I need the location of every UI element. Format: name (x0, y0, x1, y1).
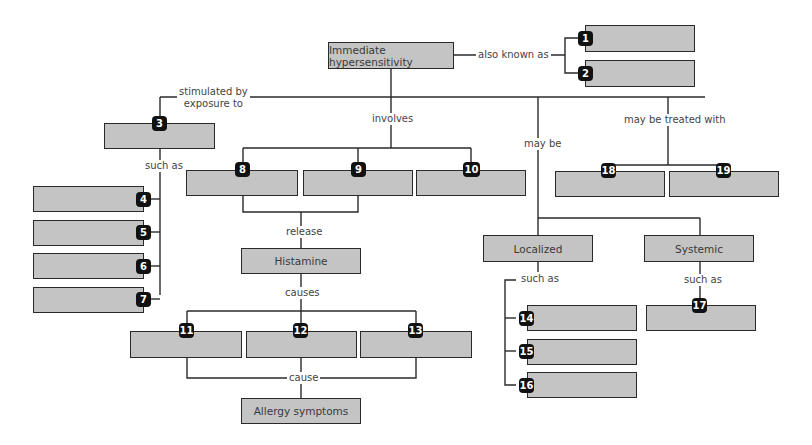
number-badge-8: 8 (235, 162, 250, 177)
allergy-symptoms-node: Allergy symptoms (241, 398, 361, 424)
number-badge-17: 17 (692, 298, 707, 313)
number-badge-13: 13 (408, 323, 423, 338)
systemic-label: Systemic (675, 243, 723, 255)
histamine-node: Histamine (241, 248, 361, 274)
root-node: Immediate hypersensitivity (328, 42, 454, 69)
localized-label: Localized (514, 243, 563, 255)
number-badge-18: 18 (601, 163, 616, 178)
histamine-label: Histamine (274, 255, 327, 267)
number-badge-11: 11 (179, 323, 194, 338)
blank-box-6[interactable] (33, 253, 144, 279)
localized-node: Localized (483, 235, 593, 262)
link-cause: cause (287, 372, 320, 384)
number-badge-14: 14 (519, 311, 534, 326)
blank-box-4[interactable] (33, 186, 144, 212)
link-involves: involves (370, 113, 415, 125)
systemic-node: Systemic (644, 235, 754, 262)
number-badge-15: 15 (519, 344, 534, 359)
blank-box-1[interactable] (585, 25, 695, 52)
root-label: Immediate hypersensitivity (329, 44, 453, 68)
number-badge-7: 7 (136, 292, 151, 307)
link-text-line1: stimulated by (179, 86, 248, 97)
link-such-as-systemic: such as (682, 274, 724, 286)
number-badge-6: 6 (136, 259, 151, 274)
number-badge-12: 12 (293, 323, 308, 338)
number-badge-2: 2 (578, 66, 593, 81)
link-release: release (284, 226, 324, 238)
link-may-be-treated-with: may be treated with (622, 114, 728, 126)
blank-box-7[interactable] (33, 287, 144, 313)
number-badge-3: 3 (152, 116, 167, 131)
number-badge-16: 16 (519, 378, 534, 393)
blank-box-15[interactable] (527, 339, 637, 365)
link-text-line2: exposure to (184, 98, 243, 109)
link-may-be: may be (522, 138, 563, 150)
link-also-known-as: also known as (476, 49, 551, 61)
number-badge-19: 19 (716, 163, 731, 178)
blank-box-2[interactable] (585, 60, 695, 87)
allergy-symptoms-label: Allergy symptoms (254, 405, 349, 417)
blank-box-16[interactable] (527, 372, 637, 398)
number-badge-10: 10 (463, 162, 480, 177)
link-causes: causes (283, 287, 322, 299)
link-stimulated-by: stimulated byexposure to (177, 86, 250, 110)
number-badge-5: 5 (136, 225, 151, 240)
link-such-as-localized: such as (519, 273, 561, 285)
concept-map: Immediate hypersensitivity also known as… (0, 0, 812, 445)
number-badge-1: 1 (578, 31, 593, 46)
number-badge-4: 4 (136, 192, 151, 207)
link-such-as-left: such as (143, 160, 185, 172)
blank-box-5[interactable] (33, 220, 144, 246)
number-badge-9: 9 (351, 162, 366, 177)
blank-box-14[interactable] (527, 305, 637, 331)
